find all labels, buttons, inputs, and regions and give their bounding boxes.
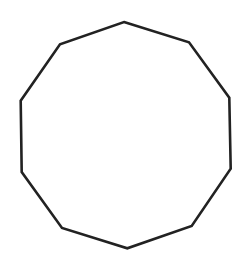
diagram-canvas: [0, 0, 251, 271]
decagon-shape: [21, 22, 231, 248]
decagon-figure: [0, 0, 251, 271]
